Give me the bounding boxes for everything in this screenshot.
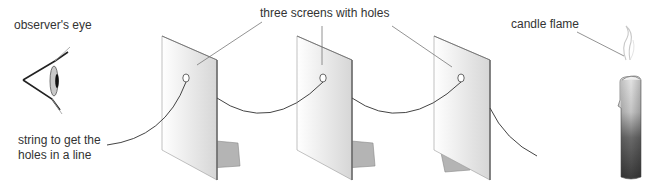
flame-icon	[624, 26, 632, 60]
diagram-canvas: observer's eye three screens with holes …	[0, 0, 654, 192]
label-three-screens: three screens with holes	[260, 6, 389, 20]
eye-icon	[23, 47, 70, 114]
label-string-line1: string to get the	[18, 133, 101, 147]
label-candle-flame: candle flame	[511, 17, 579, 31]
screen-1	[162, 36, 240, 180]
label-observers-eye: observer's eye	[14, 18, 92, 32]
screen-1-hole	[183, 74, 189, 82]
screen-2-hole	[320, 74, 326, 82]
screen-3-hole	[458, 74, 464, 82]
screen-2	[297, 36, 375, 180]
candle-icon	[618, 26, 641, 179]
label-string-line2: holes in a line	[18, 148, 91, 162]
screen-3	[434, 36, 490, 180]
